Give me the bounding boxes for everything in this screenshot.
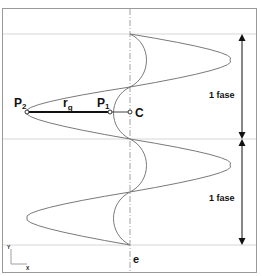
- phase-diagram: P2 P1 rg C 1 fase 1 fase e Y X: [0, 0, 262, 276]
- label-phase-bottom: 1 fase: [209, 193, 235, 203]
- label-radius: rg: [63, 96, 73, 112]
- point-c: [128, 110, 132, 114]
- arrowhead-up-icon: [239, 34, 246, 41]
- arrowhead-up-icon: [239, 139, 246, 146]
- label-phase-top: 1 fase: [209, 90, 235, 100]
- label-p2: P2: [14, 96, 27, 111]
- label-center: C: [135, 106, 144, 120]
- arrowhead-down-icon: [239, 132, 246, 139]
- axis-indicator-icon: Y X: [7, 244, 30, 271]
- label-end: e: [133, 253, 139, 265]
- arrowhead-down-icon: [239, 238, 246, 245]
- phase-arrow-bottom: [239, 139, 246, 245]
- axis-label-x: X: [26, 265, 30, 271]
- phase-arrow-top: [239, 34, 246, 139]
- label-p1: P1: [97, 96, 110, 111]
